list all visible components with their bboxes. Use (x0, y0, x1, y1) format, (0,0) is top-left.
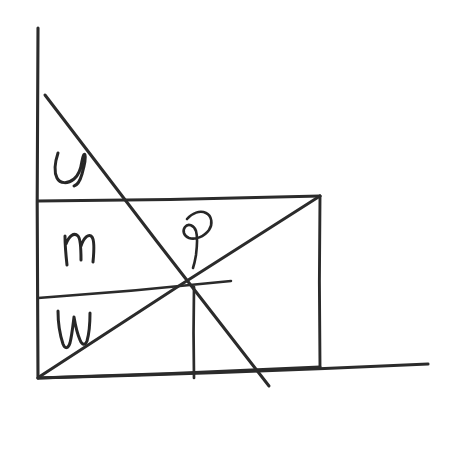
ascending-diagonal (39, 196, 320, 377)
label-p: p (184, 212, 212, 268)
horizontal-divider (38, 281, 231, 298)
rectangle-right-edge (319, 196, 320, 367)
rectangle-top-edge (38, 196, 320, 201)
label-p-glyph (184, 212, 212, 268)
axes-group (37, 28, 428, 378)
diagram-canvas: s m w p Hand-drawn geometry sketch with … (0, 0, 460, 450)
label-s: s (55, 153, 85, 186)
label-m-glyph (65, 234, 94, 265)
label-w: w (58, 311, 90, 348)
label-w-glyph (58, 311, 90, 348)
sketch-drawing: s m w p (0, 0, 460, 450)
labels-group: s m w p (55, 153, 211, 348)
label-m: m (65, 234, 94, 265)
label-s-glyph (55, 153, 85, 186)
rectangle-bottom-edge (38, 367, 320, 378)
vertical-axis (37, 28, 38, 378)
